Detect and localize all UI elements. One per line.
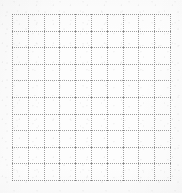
grid-intersection-node: [107, 14, 108, 15]
grid-intersection-node: [154, 31, 155, 32]
grid-intersection-node: [59, 64, 60, 65]
grid-intersection-node: [170, 64, 171, 65]
grid-intersection-node: [44, 64, 45, 65]
grid-intersection-node: [170, 97, 171, 98]
grid-intersection-node: [12, 64, 13, 65]
grid-intersection-node: [154, 64, 155, 65]
grid-intersection-node: [138, 31, 139, 32]
grid-intersection-node: [44, 80, 45, 81]
grid-paper-page: [0, 0, 182, 193]
grid-intersection-node: [170, 47, 171, 48]
grid-intersection-node: [138, 147, 139, 148]
grid-intersection-node: [138, 80, 139, 81]
grid-intersection-node: [12, 147, 13, 148]
grid-intersection-node: [28, 31, 29, 32]
grid-intersection-node: [138, 97, 139, 98]
grid-intersection-node: [44, 147, 45, 148]
grid-intersection-node: [75, 163, 76, 164]
grid-intersection-node: [123, 80, 124, 81]
grid-intersection-node: [75, 31, 76, 32]
grid-intersection-node: [28, 80, 29, 81]
grid-intersection-node: [59, 97, 60, 98]
grid-intersection-node: [154, 14, 155, 15]
grid-intersection-node: [12, 114, 13, 115]
grid-intersection-node: [170, 114, 171, 115]
grid-intersection-node: [28, 180, 29, 181]
grid-intersection-node: [59, 180, 60, 181]
grid-intersection-node: [59, 80, 60, 81]
grid-intersection-node: [59, 47, 60, 48]
grid-intersection-node: [28, 114, 29, 115]
grid-intersection-node: [28, 14, 29, 15]
grid-intersection-node: [44, 130, 45, 131]
grid-intersection-node: [91, 47, 92, 48]
grid-intersection-node: [44, 14, 45, 15]
grid-intersection-node: [44, 114, 45, 115]
grid-intersection-node: [123, 147, 124, 148]
grid-intersection-node: [138, 64, 139, 65]
grid-intersection-node: [91, 14, 92, 15]
grid-intersection-node: [123, 97, 124, 98]
grid-intersection-node: [75, 180, 76, 181]
grid-intersection-node: [75, 130, 76, 131]
grid-intersection-node: [154, 114, 155, 115]
grid-intersection-node: [123, 47, 124, 48]
grid-intersection-node: [75, 97, 76, 98]
grid-intersection-node: [91, 64, 92, 65]
grid-intersection-node: [59, 114, 60, 115]
grid-intersection-node: [91, 31, 92, 32]
grid-intersection-node: [107, 80, 108, 81]
grid-intersection-node: [154, 97, 155, 98]
grid-intersection-node: [138, 180, 139, 181]
grid-intersection-node: [12, 47, 13, 48]
grid-intersection-node: [75, 14, 76, 15]
grid-intersection-node: [154, 180, 155, 181]
grid-intersection-node: [59, 14, 60, 15]
grid-intersection-node: [59, 163, 60, 164]
grid-intersection-node: [170, 180, 171, 181]
grid-intersection-node: [28, 47, 29, 48]
grid-intersection-node: [44, 31, 45, 32]
grid-intersection-node: [170, 147, 171, 148]
grid-intersection-node: [75, 64, 76, 65]
grid-intersection-node: [28, 163, 29, 164]
grid-intersection-node: [107, 180, 108, 181]
grid-intersection-node: [59, 147, 60, 148]
grid-intersection-node: [154, 163, 155, 164]
grid-intersection-node: [75, 114, 76, 115]
grid-intersection-node: [107, 47, 108, 48]
grid-intersection-node: [28, 147, 29, 148]
grid-intersection-node: [107, 97, 108, 98]
grid-intersection-node: [91, 97, 92, 98]
grid-intersection-node: [75, 80, 76, 81]
grid-intersection-node: [107, 31, 108, 32]
grid-intersection-node: [123, 130, 124, 131]
grid-intersection-node: [107, 114, 108, 115]
grid-intersection-node: [107, 147, 108, 148]
grid-intersection-node: [138, 47, 139, 48]
grid-intersection-node: [170, 31, 171, 32]
grid-intersection-node: [123, 163, 124, 164]
grid-intersection-node: [12, 130, 13, 131]
grid-intersection-node: [154, 47, 155, 48]
grid-intersection-node: [59, 31, 60, 32]
grid-intersection-node: [44, 97, 45, 98]
grid-intersection-node: [91, 180, 92, 181]
grid-intersection-node: [12, 163, 13, 164]
grid-intersection-node: [138, 130, 139, 131]
grid-intersection-node: [44, 180, 45, 181]
grid-intersection-node: [107, 130, 108, 131]
grid-intersection-node: [107, 163, 108, 164]
grid-intersection-node: [91, 147, 92, 148]
grid-intersection-node: [107, 64, 108, 65]
grid-intersection-node: [138, 14, 139, 15]
grid-intersection-node: [123, 180, 124, 181]
grid-intersection-node: [12, 97, 13, 98]
grid-intersection-node: [91, 163, 92, 164]
grid-intersection-node: [154, 130, 155, 131]
grid-intersection-node: [28, 97, 29, 98]
grid-intersection-node: [12, 80, 13, 81]
grid-intersection-node: [59, 130, 60, 131]
grid-intersection-node: [28, 130, 29, 131]
grid-intersection-node: [91, 114, 92, 115]
